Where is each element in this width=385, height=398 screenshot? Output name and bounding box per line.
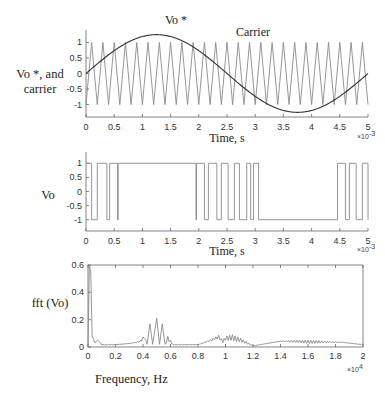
y-tick-label: -0.5: [66, 201, 82, 211]
x-tick-label: 1.4: [274, 351, 287, 361]
x-tick-label: 1.6: [302, 351, 315, 361]
axes-box-3: [88, 265, 363, 347]
y-axis-label-1: Vo *, and carrier: [4, 67, 76, 97]
y-tick-label: -1: [74, 100, 82, 110]
plot-vo-ref-carrier: 10.50-0.5-1 00.511.522.533.544.55 Vo * C…: [66, 13, 375, 145]
x-tick-label: 3.5: [277, 236, 290, 246]
carrier-annotation: Carrier: [236, 25, 270, 39]
x-tick-label: 0: [83, 236, 88, 246]
y-axis-label-1-line1: Vo *, and: [4, 67, 76, 82]
x-tick-label: 1.5: [164, 236, 177, 246]
y-tick-label: 1: [77, 37, 82, 47]
x-tick-label: 2: [196, 236, 201, 246]
plot-fft: 0.60.40.20 00.20.40.60.811.21.41.61.82 F…: [71, 260, 365, 386]
x-axis-label-1: Time, s: [209, 131, 245, 145]
y-tick-label: 1: [77, 158, 82, 168]
y-tick-label: -1: [74, 215, 82, 225]
x-tick-label: 0: [85, 351, 90, 361]
y-tick-label: 0.5: [69, 172, 82, 182]
y-axis-label-3: fft (Vo): [20, 296, 80, 311]
x-tick-label: 2: [196, 122, 201, 132]
x-tick-label: 1.8: [329, 351, 342, 361]
x-axis-label-2: Time, s: [209, 244, 245, 258]
vo-pwm-line: [86, 163, 368, 219]
x-tick-label: 0.4: [137, 351, 150, 361]
axes-2: [86, 152, 368, 231]
x-tick-label: 0: [83, 122, 88, 132]
x-tick-label: 4.5: [334, 122, 347, 132]
y-axis-label-2: Vo: [28, 188, 68, 203]
x-tick-label: 0.2: [109, 351, 122, 361]
x-tick-label: 3: [253, 236, 258, 246]
y-tick-label: 0: [77, 69, 82, 79]
x-tick-label: 4: [309, 236, 314, 246]
x-tick-label: 3.5: [277, 122, 290, 132]
x-tick-label: 2: [360, 351, 365, 361]
y-tick-label: 0.5: [69, 53, 82, 63]
plot-vo: 10.50-0.5-1 00.511.522.533.544.55 Time, …: [66, 152, 375, 258]
y-tick-label: 0: [79, 342, 84, 352]
y-tick-label: 0: [77, 187, 82, 197]
x-tick-label: 4: [309, 122, 314, 132]
x-tick-label: 0.6: [164, 351, 177, 361]
x-tick-label: 1.5: [164, 122, 177, 132]
x-axis-label-3: Frequency, Hz: [95, 372, 168, 386]
x-tick-label: 1: [223, 351, 228, 361]
y-tick-label: 0.6: [71, 260, 84, 270]
x-tick-label: 0.5: [108, 122, 121, 132]
y-tick-label: 0.2: [71, 315, 84, 325]
vo-ref-annotation: Vo *: [165, 13, 187, 27]
y-axis-label-1-line2: carrier: [4, 82, 76, 97]
x-tick-label: 4.5: [334, 236, 347, 246]
x-tick-label: 1: [140, 236, 145, 246]
x-tick-label: 0.8: [192, 351, 205, 361]
x-tick-label: 1.2: [247, 351, 260, 361]
x-tick-label: 1: [140, 122, 145, 132]
fft-line: [88, 265, 363, 347]
x-tick-label: 0.5: [108, 236, 121, 246]
x-exponent-3: ×104: [347, 363, 363, 373]
x-tick-label: 3: [253, 122, 258, 132]
